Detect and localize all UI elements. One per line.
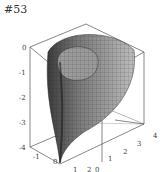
svg-text:-2: -2 xyxy=(19,94,26,102)
svg-text:-4: -4 xyxy=(19,144,26,152)
svg-text:1: 1 xyxy=(73,166,77,172)
svg-text:-3: -3 xyxy=(19,119,26,127)
y-axis-ticks: 0 1 2 3 4 xyxy=(95,132,158,172)
svg-text:1: 1 xyxy=(108,155,112,163)
svg-text:-1: -1 xyxy=(33,153,40,161)
z-axis-ticks: 0 -1 -2 -3 -4 xyxy=(19,44,26,152)
svg-text:4: 4 xyxy=(153,132,158,140)
svg-text:-1: -1 xyxy=(19,69,26,77)
surface-mesh xyxy=(47,34,134,163)
svg-text:0: 0 xyxy=(95,166,99,172)
svg-text:2: 2 xyxy=(123,148,127,156)
svg-text:2: 2 xyxy=(87,166,91,172)
svg-text:0: 0 xyxy=(22,44,26,52)
svg-text:0: 0 xyxy=(53,158,57,166)
surface-plot: 0 -1 -2 -3 -4 -1 0 1 2 0 1 2 3 4 xyxy=(0,0,168,172)
svg-text:3: 3 xyxy=(137,140,141,148)
